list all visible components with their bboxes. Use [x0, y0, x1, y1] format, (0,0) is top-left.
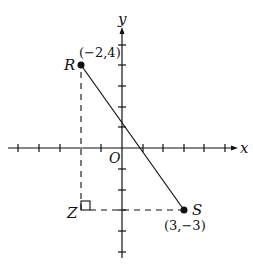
right-angle-marker [81, 201, 90, 210]
coordinate-diagram: y x O R (−2,4) S (3,−3) Z [0, 0, 253, 265]
segment-RS [81, 65, 184, 210]
point-S-label: S [192, 201, 202, 219]
origin-label: O [109, 150, 121, 166]
point-S-coords: (3,−3) [164, 218, 206, 233]
point-R-coords: (−2,4) [79, 45, 121, 60]
point-R-label: R [63, 56, 75, 74]
y-axis-label: y [117, 10, 127, 28]
point-R [78, 62, 85, 69]
x-axis [8, 144, 238, 152]
point-Z-label: Z [66, 204, 78, 222]
point-S [181, 207, 188, 214]
y-axis [118, 27, 126, 258]
x-axis-label: x [240, 139, 249, 157]
dashed-segments [81, 72, 182, 210]
